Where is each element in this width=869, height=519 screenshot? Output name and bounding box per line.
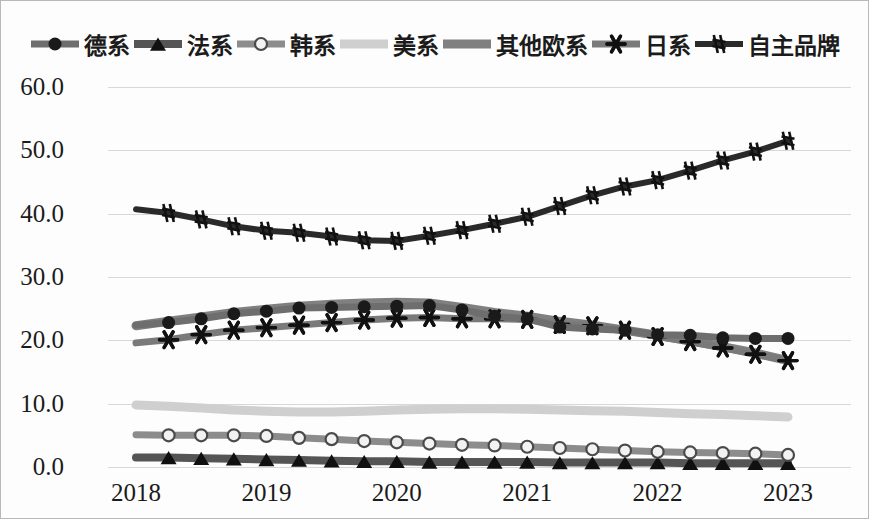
x-axis-tick-label: 2020 (337, 479, 457, 507)
legend-marker-美系-icon (338, 34, 390, 54)
data-point-marker (160, 332, 178, 348)
data-point-marker (423, 299, 436, 312)
series-line (136, 405, 788, 417)
y-axis-tick-label: 50.0 (0, 136, 64, 164)
legend-item-德系[interactable]: 德系 (29, 27, 132, 61)
data-point-marker (782, 449, 794, 461)
data-point-marker (651, 328, 664, 341)
data-point-marker (162, 316, 175, 329)
legend-marker-自主品牌-icon (693, 34, 745, 54)
legend-label: 自主品牌 (745, 27, 842, 61)
legend-label: 法系 (184, 27, 235, 61)
legend-label: 韩系 (287, 27, 338, 61)
legend-item-自主品牌[interactable]: 自主品牌 (693, 27, 842, 61)
legend-label: 日系 (642, 27, 693, 61)
legend-marker-德系-icon (29, 34, 81, 54)
data-point-marker (390, 300, 403, 313)
legend-label: 德系 (81, 27, 132, 61)
data-point-marker (554, 442, 566, 454)
data-point-marker (192, 327, 210, 343)
plot-area: 0.010.020.030.040.050.060.0 201820192020… (108, 87, 851, 467)
y-axis-tick-label: 40.0 (0, 200, 64, 228)
data-point-marker (553, 321, 566, 334)
data-point-marker (456, 439, 468, 451)
data-point-marker (619, 324, 632, 337)
x-axis-tick-label: 2021 (467, 479, 587, 507)
legend-item-美系[interactable]: 美系 (338, 27, 441, 61)
series-自主品牌 (136, 132, 794, 250)
series-layer (108, 87, 851, 467)
data-point-marker (228, 429, 240, 441)
data-point-marker (325, 301, 338, 314)
legend-label: 其他欧系 (493, 27, 590, 61)
chart-container: 德系法系韩系美系其他欧系日系自主品牌 0.010.020.030.040.050… (0, 0, 869, 519)
data-point-marker (619, 445, 631, 457)
data-point-marker (521, 441, 533, 453)
data-point-marker (293, 432, 305, 444)
y-axis-tick-label: 30.0 (0, 263, 64, 291)
data-point-marker (607, 36, 625, 52)
data-point-marker (358, 435, 370, 447)
data-point-marker (290, 317, 308, 333)
legend-item-日系[interactable]: 日系 (590, 27, 693, 61)
data-point-marker (684, 329, 697, 342)
y-axis-tick-label: 60.0 (0, 73, 64, 101)
data-point-marker (195, 429, 207, 441)
data-point-marker (260, 305, 273, 318)
data-point-marker (225, 322, 243, 338)
data-point-marker (749, 332, 762, 345)
data-point-marker (391, 436, 403, 448)
data-point-marker (227, 307, 240, 320)
data-point-marker (717, 447, 729, 459)
x-axis-tick-label: 2022 (598, 479, 718, 507)
data-point-marker (586, 443, 598, 455)
data-point-marker (195, 312, 208, 325)
x-axis-tick-label: 2019 (206, 479, 326, 507)
data-point-marker (456, 303, 469, 316)
data-point-marker (163, 429, 175, 441)
series-美系 (136, 405, 788, 417)
data-point-marker (49, 38, 62, 51)
data-point-marker (423, 438, 435, 450)
data-point-marker (293, 302, 306, 315)
data-point-marker (521, 312, 534, 325)
legend-label: 美系 (390, 27, 441, 61)
legend-item-法系[interactable]: 法系 (132, 27, 235, 61)
legend-item-其他欧系[interactable]: 其他欧系 (441, 27, 590, 61)
legend-marker-日系-icon (590, 34, 642, 54)
data-point-marker (749, 448, 761, 460)
data-point-marker (323, 315, 341, 331)
data-point-marker (420, 310, 438, 326)
x-axis-tick-label: 2023 (728, 479, 848, 507)
data-point-marker (488, 310, 501, 323)
data-point-marker (489, 439, 501, 451)
data-point-marker (260, 430, 272, 442)
y-axis-tick-label: 20.0 (0, 326, 64, 354)
legend-marker-韩系-icon (235, 34, 287, 54)
data-point-marker (255, 38, 267, 50)
data-point-marker (388, 310, 406, 326)
data-point-marker (684, 446, 696, 458)
y-axis-tick-label: 10.0 (0, 390, 64, 418)
x-axis-tick-label: 2018 (76, 479, 196, 507)
data-point-marker (586, 322, 599, 335)
data-point-marker (716, 331, 729, 344)
legend-marker-其他欧系-icon (441, 34, 493, 54)
legend-item-韩系[interactable]: 韩系 (235, 27, 338, 61)
legend-marker-法系-icon (132, 34, 184, 54)
data-point-marker (355, 312, 373, 328)
data-point-marker (782, 332, 795, 345)
data-point-marker (358, 300, 371, 313)
data-point-marker (652, 446, 664, 458)
chart-legend: 德系法系韩系美系其他欧系日系自主品牌 (1, 27, 869, 61)
y-axis-tick-label: 0.0 (0, 453, 64, 481)
data-point-marker (326, 433, 338, 445)
data-point-marker (257, 320, 275, 336)
